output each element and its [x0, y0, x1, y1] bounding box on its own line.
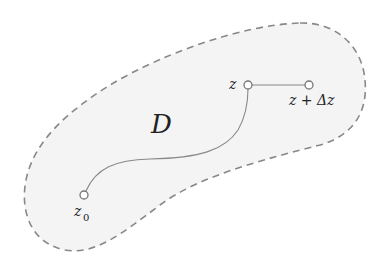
point-label-z: z — [228, 76, 237, 92]
point-label-z-plus-dz: z + Δz — [288, 92, 335, 108]
point-label-z0-subscript: 0 — [83, 212, 89, 223]
point-z-plus-dz-marker — [305, 81, 313, 89]
region-diagram-svg: D z z + Δz z 0 — [0, 0, 384, 270]
point-z-marker — [244, 81, 252, 89]
point-label-z0-main: z — [73, 203, 82, 219]
region-label-d: D — [150, 109, 172, 139]
point-z0-marker — [80, 191, 88, 199]
diagram-canvas: D z z + Δz z 0 — [0, 0, 384, 270]
